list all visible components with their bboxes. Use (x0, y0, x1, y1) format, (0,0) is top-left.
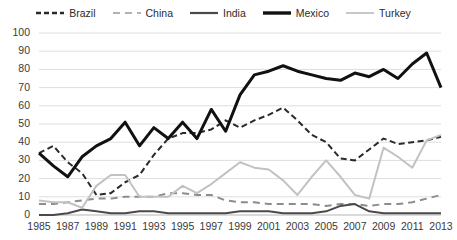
y-axis-tick-label: 0 (0, 209, 30, 220)
plot-canvas (0, 26, 447, 240)
legend-item-india[interactable]: India (190, 8, 246, 18)
legend-swatch-india (190, 8, 218, 18)
y-axis-tick-label: 20 (0, 173, 30, 184)
y-axis-tick-label: 60 (0, 100, 30, 111)
y-axis-tick-label: 40 (0, 136, 30, 147)
legend-label-mexico: Mexico (296, 8, 329, 18)
legend-swatch-brazil (36, 8, 64, 18)
legend-item-brazil[interactable]: Brazil (36, 8, 95, 18)
series-line-brazil (39, 108, 441, 195)
y-axis-tick-label: 90 (0, 45, 30, 56)
x-axis-tick-label: 2013 (424, 221, 457, 232)
y-axis-tick-label: 100 (0, 27, 30, 38)
series-line-india (39, 204, 441, 215)
y-axis-tick-label: 80 (0, 63, 30, 74)
y-axis-tick-label: 10 (0, 191, 30, 202)
legend-label-india: India (223, 8, 246, 18)
legend-swatch-mexico (263, 8, 291, 18)
legend-item-turkey[interactable]: Turkey (346, 8, 411, 18)
y-axis-tick-label: 70 (0, 82, 30, 93)
plot-area: 0102030405060708090100 19851987198919911… (0, 26, 447, 240)
chart-legend: Brazil China India Mexico Turkey (0, 3, 447, 23)
y-axis-tick-label: 50 (0, 118, 30, 129)
legend-label-china: China (146, 8, 173, 18)
legend-label-turkey: Turkey (379, 8, 411, 18)
legend-label-brazil: Brazil (69, 8, 95, 18)
legend-item-mexico[interactable]: Mexico (263, 8, 329, 18)
series-line-china (39, 193, 441, 206)
y-axis-tick-label: 30 (0, 154, 30, 165)
legend-swatch-turkey (346, 8, 374, 18)
legend-item-china[interactable]: China (113, 8, 173, 18)
legend-swatch-china (113, 8, 141, 18)
